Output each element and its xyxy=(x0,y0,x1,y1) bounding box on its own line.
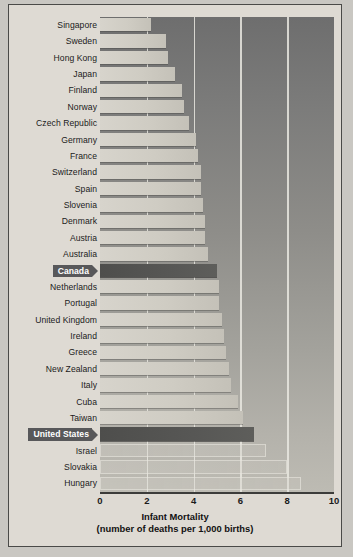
bar-row xyxy=(100,230,334,246)
highlight-banner-united-states: United States xyxy=(28,428,92,441)
axis-title-line-2: (number of deaths per 1,000 births) xyxy=(9,523,341,535)
x-tick-label-6: 6 xyxy=(238,495,243,506)
bar-greece xyxy=(100,346,226,359)
category-label-row: Austria xyxy=(19,230,98,246)
bar-row xyxy=(100,132,334,148)
bar-row xyxy=(100,476,334,492)
category-label-column: SingaporeSwedenHong KongJapanFinlandNorw… xyxy=(19,17,98,492)
category-label: Italy xyxy=(81,381,98,390)
axis-title-line-1: Infant Mortality xyxy=(9,511,341,523)
bar-france xyxy=(100,149,198,162)
bar-hungary xyxy=(100,477,301,490)
category-label-row: Sweden xyxy=(19,33,98,49)
category-label: Austria xyxy=(70,234,98,243)
bar-row xyxy=(100,312,334,328)
category-label-row: Australia xyxy=(19,246,98,262)
category-label: United Kingdom xyxy=(35,316,98,325)
category-label-row: Hong Kong xyxy=(19,50,98,66)
category-label: United States xyxy=(33,430,89,439)
x-tick-label-0: 0 xyxy=(97,495,102,506)
category-label-row: Greece xyxy=(19,345,98,361)
bar-row xyxy=(100,394,334,410)
bar-japan xyxy=(100,67,175,80)
bar-taiwan xyxy=(100,411,243,424)
category-label-row: Israel xyxy=(19,443,98,459)
bar-row xyxy=(100,295,334,311)
category-label-row: Finland xyxy=(19,83,98,99)
category-label-row: Japan xyxy=(19,66,98,82)
bar-norway xyxy=(100,100,184,113)
category-label: Czech Republic xyxy=(36,119,98,128)
category-label-row: Canada xyxy=(19,263,98,279)
category-label-row: Portugal xyxy=(19,295,98,311)
bar-rows-group xyxy=(100,17,334,492)
category-label: Israel xyxy=(76,447,98,456)
bar-portugal xyxy=(100,296,219,309)
bar-row xyxy=(100,66,334,82)
bar-row xyxy=(100,279,334,295)
page-canvas: SingaporeSwedenHong KongJapanFinlandNorw… xyxy=(0,0,353,557)
chart-figure-frame: SingaporeSwedenHong KongJapanFinlandNorw… xyxy=(8,4,342,547)
bar-row xyxy=(100,328,334,344)
bar-row xyxy=(100,17,334,33)
category-label-row: Cuba xyxy=(19,394,98,410)
category-label-row: France xyxy=(19,148,98,164)
bar-finland xyxy=(100,84,182,97)
bar-italy xyxy=(100,378,231,391)
x-tick-label-4: 4 xyxy=(191,495,196,506)
bar-row xyxy=(100,246,334,262)
category-label-row: Slovakia xyxy=(19,459,98,475)
x-tick-label-2: 2 xyxy=(144,495,149,506)
bar-row xyxy=(100,197,334,213)
category-label: Switzerland xyxy=(52,168,98,177)
bar-slovenia xyxy=(100,198,203,211)
category-label: Singapore xyxy=(57,21,98,30)
bar-row xyxy=(100,377,334,393)
category-label: Netherlands xyxy=(50,283,98,292)
category-label-row: United Kingdom xyxy=(19,312,98,328)
chart-figure-inner: SingaporeSwedenHong KongJapanFinlandNorw… xyxy=(9,5,341,546)
bar-row xyxy=(100,263,334,279)
category-label-row: Slovenia xyxy=(19,197,98,213)
category-label: Portugal xyxy=(65,299,98,308)
category-label-row: Netherlands xyxy=(19,279,98,295)
bar-new-zealand xyxy=(100,362,229,375)
category-label: Slovakia xyxy=(64,463,98,472)
category-label: Slovenia xyxy=(64,201,98,210)
bar-row xyxy=(100,115,334,131)
bar-czech-republic xyxy=(100,116,189,129)
bar-row xyxy=(100,214,334,230)
category-label: Denmark xyxy=(62,217,98,226)
category-label-row: Italy xyxy=(19,377,98,393)
bar-denmark xyxy=(100,215,205,228)
x-axis-title: Infant Mortality (number of deaths per 1… xyxy=(9,511,341,535)
plot-area xyxy=(100,17,334,492)
category-label-row: New Zealand xyxy=(19,361,98,377)
bar-singapore xyxy=(100,18,151,31)
bar-spain xyxy=(100,182,201,195)
bar-netherlands xyxy=(100,280,219,293)
category-label: Canada xyxy=(58,267,89,276)
bar-row xyxy=(100,361,334,377)
bar-canada xyxy=(100,264,217,277)
category-label-row: Singapore xyxy=(19,17,98,33)
bar-row xyxy=(100,99,334,115)
category-label: Hong Kong xyxy=(54,54,98,63)
bar-united-kingdom xyxy=(100,313,222,326)
bar-israel xyxy=(100,444,266,457)
bar-row xyxy=(100,426,334,442)
bar-ireland xyxy=(100,329,224,342)
category-label: Hungary xyxy=(64,479,98,488)
bar-row xyxy=(100,33,334,49)
bar-sweden xyxy=(100,34,166,47)
bar-row xyxy=(100,443,334,459)
bar-row xyxy=(100,345,334,361)
category-label: Taiwan xyxy=(70,414,98,423)
category-label-row: Czech Republic xyxy=(19,115,98,131)
bar-row xyxy=(100,83,334,99)
category-label: New Zealand xyxy=(46,365,98,374)
x-tick-label-10: 10 xyxy=(329,495,340,506)
category-label: Australia xyxy=(63,250,98,259)
category-label-row: Hungary xyxy=(19,476,98,492)
bar-slovakia xyxy=(100,460,287,473)
